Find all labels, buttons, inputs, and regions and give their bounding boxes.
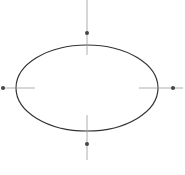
- handle-dot-bottom[interactable]: [85, 142, 89, 146]
- handle-right[interactable]: [139, 86, 183, 90]
- handle-dot-right[interactable]: [171, 86, 175, 90]
- diagram-canvas: [0, 0, 185, 175]
- handle-left[interactable]: [1, 86, 35, 90]
- handle-bottom[interactable]: [85, 115, 89, 160]
- handle-dot-top[interactable]: [85, 31, 89, 35]
- handles-group: [1, 0, 183, 160]
- handle-top[interactable]: [85, 0, 89, 55]
- handle-dot-left[interactable]: [1, 86, 5, 90]
